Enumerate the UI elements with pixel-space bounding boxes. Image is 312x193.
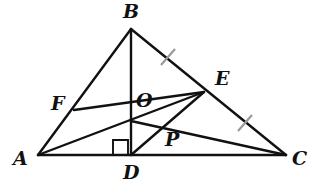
point-label-c: C xyxy=(292,149,307,168)
point-label-p: P xyxy=(165,130,179,149)
point-label-e: E xyxy=(215,69,229,88)
segments-group xyxy=(38,29,286,155)
geometry-figure: ABCDEFOP xyxy=(0,0,312,193)
point-label-o: O xyxy=(136,91,153,110)
point-label-a: A xyxy=(13,149,28,168)
right-angle-marker-at-d xyxy=(113,140,128,155)
point-label-b: B xyxy=(123,2,139,21)
geometry-canvas xyxy=(0,0,312,193)
point-label-d: D xyxy=(123,163,139,182)
segment-oc xyxy=(131,121,286,155)
point-label-f: F xyxy=(51,94,65,113)
right-angle-group xyxy=(113,140,128,155)
